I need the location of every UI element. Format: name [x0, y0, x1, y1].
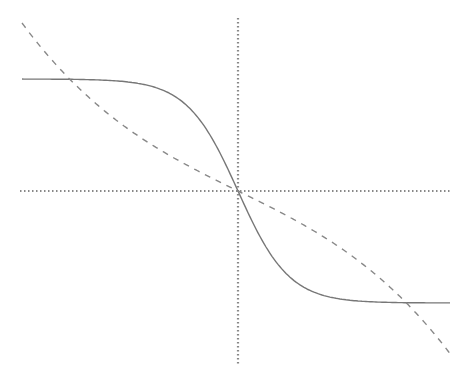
- dashed-curve: [22, 23, 450, 354]
- chart-plot-area: [0, 0, 472, 376]
